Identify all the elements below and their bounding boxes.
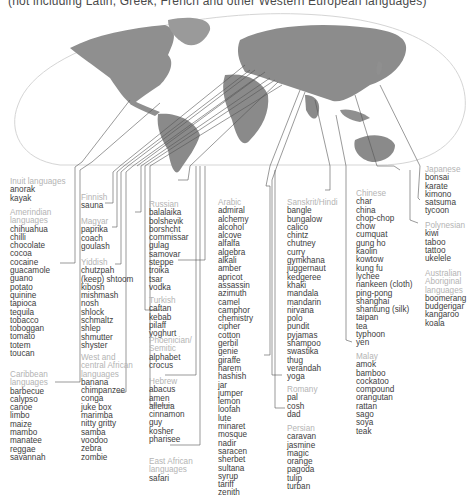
word: kayak [10, 195, 66, 203]
group-finnish: Finnish sauna [81, 194, 107, 211]
africa [223, 74, 268, 143]
word: goulash [81, 243, 110, 251]
greenland [168, 18, 210, 46]
word: safari [149, 475, 193, 483]
group-east-african: East African languages safari [149, 458, 193, 483]
word: tycoon [425, 207, 461, 215]
word: savannah [10, 454, 48, 462]
group-caribbean: Caribbean languages barbecue calypso can… [10, 371, 48, 462]
group-turkish: Turkish caftan kebab pilaff yoghurt [149, 297, 176, 338]
group-romany: Romany pal cosh dad [287, 386, 318, 419]
group-sanskrit-hindi: Sanskrit/Hindi bangle bungalow calico ch… [287, 199, 338, 382]
group-inuit: Inuit languages anorak kayak [10, 178, 66, 203]
india [305, 95, 319, 119]
group-chinese: Chinese char china chop-chop chow cumqua… [356, 190, 412, 348]
word: ukelele [425, 255, 465, 263]
central-america [130, 100, 160, 116]
word: shyster [81, 342, 133, 350]
group-yiddish: Yiddish chutzpah (keep) shtoom kibosh mi… [81, 259, 133, 350]
word: yoga [287, 373, 338, 381]
word: sauna [81, 202, 107, 210]
word: crocus [149, 362, 192, 370]
word: yen [356, 339, 412, 347]
word: koala [425, 320, 466, 328]
group-hebrew: Hebrew abacus amen alleluia cinnamon guy… [149, 378, 185, 444]
group-amerindian: Amerindian languages chihuahua chilli ch… [10, 209, 51, 358]
word: pharisee [149, 436, 185, 444]
word: dad [287, 411, 318, 419]
group-japanese: Japanese bonsai karate kimono satsuma ty… [425, 166, 461, 216]
word: turban [287, 483, 316, 491]
group-magyar: Magyar paprika coach goulash [81, 218, 110, 251]
group-polynesian: Polynesian kiwi taboo tattoo ukelele [425, 222, 465, 263]
word: zenith [218, 489, 253, 497]
group-australian-aboriginal: Australian Aboriginal languages boomeran… [425, 270, 466, 328]
word: vodka [149, 284, 189, 292]
group-west-central-african: West and central African languages banan… [81, 354, 133, 462]
group-russian: Russian balalaika bolshevik borshcht com… [149, 201, 189, 292]
group-arabic: Arabic admiral alchemy alcohol alcove al… [218, 199, 253, 498]
word: zombie [81, 454, 133, 462]
group-persian: Persian caravan jasmine magic orange pag… [287, 425, 316, 491]
word: teak [356, 428, 394, 436]
word: toucan [10, 350, 51, 358]
north-america [70, 25, 174, 105]
southeast-asia [340, 109, 370, 122]
group-malay: Malay amok bamboo cockatoo compound oran… [356, 353, 394, 436]
group-phoenician-semitic: Phoenician/ Semitic alphabet crocus [149, 337, 192, 370]
